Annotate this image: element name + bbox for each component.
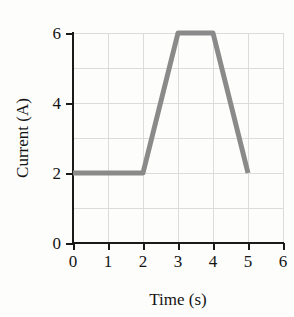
chart-screenshot: 0123456 0246 Time (s) Current (A) xyxy=(0,0,294,317)
x-axis-title: Time (s) xyxy=(149,290,206,309)
x-tick-label-6: 6 xyxy=(279,252,288,271)
x-tick-label-3: 3 xyxy=(174,252,183,271)
x-tick-label-1: 1 xyxy=(104,252,113,271)
y-tick-label-4: 4 xyxy=(53,94,62,113)
x-tick-label-4: 4 xyxy=(209,252,218,271)
y-tick-label-2: 2 xyxy=(53,164,62,183)
x-tick-label-2: 2 xyxy=(139,252,148,271)
current-vs-time-chart: 0123456 0246 Time (s) Current (A) xyxy=(0,0,294,317)
y-axis-title: Current (A) xyxy=(13,98,32,178)
y-tick-label-6: 6 xyxy=(53,24,62,43)
x-tick-label-5: 5 xyxy=(244,252,253,271)
y-tick-label-0: 0 xyxy=(53,234,62,253)
x-tick-label-0: 0 xyxy=(69,252,78,271)
